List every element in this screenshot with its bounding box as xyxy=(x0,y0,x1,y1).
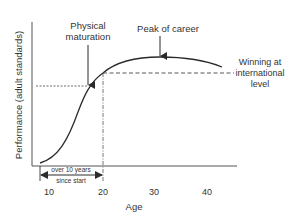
y-axis-title: Performance (adult standards) xyxy=(13,31,24,159)
x-tick-40: 40 xyxy=(202,187,212,197)
x-axis-title: Age xyxy=(126,201,143,212)
span-label-2: since start xyxy=(56,177,86,184)
maturation-label: Physical xyxy=(70,20,105,31)
maturation-label-2: maturation xyxy=(66,31,111,42)
span-label: over 10 years xyxy=(51,166,91,174)
x-tick-20: 20 xyxy=(98,187,108,197)
winning-label: Winning at xyxy=(239,57,282,67)
x-tick-10: 10 xyxy=(44,187,54,197)
performance-diagram: Physical maturation Peak of career Winni… xyxy=(0,0,297,218)
x-tick-30: 30 xyxy=(149,187,159,197)
peak-label: Peak of career xyxy=(137,23,199,34)
winning-label-3: level xyxy=(251,79,270,89)
winning-label-2: international xyxy=(235,68,284,78)
